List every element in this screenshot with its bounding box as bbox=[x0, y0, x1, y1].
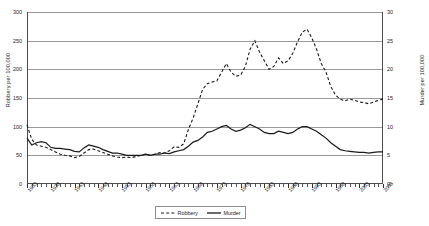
y-tick-label-left: 50 bbox=[6, 152, 22, 158]
legend-item-robbery: Robbery bbox=[161, 210, 198, 216]
x-tick bbox=[207, 184, 208, 187]
x-tick bbox=[70, 184, 71, 187]
y-tick-label-right: 20 bbox=[387, 66, 403, 72]
x-tick bbox=[307, 184, 308, 187]
y-tick-label-left: 250 bbox=[6, 38, 22, 44]
x-tick bbox=[236, 184, 237, 187]
chart-container: Robbery per 100,000 Murder per 100,000 0… bbox=[0, 0, 429, 226]
chart-legend: Robbery Murder bbox=[155, 206, 246, 219]
x-tick bbox=[374, 184, 375, 187]
x-tick bbox=[326, 184, 327, 187]
x-tick bbox=[94, 184, 95, 187]
x-tick bbox=[331, 184, 332, 187]
x-tick bbox=[212, 184, 213, 187]
x-tick bbox=[255, 184, 256, 187]
x-tick bbox=[279, 184, 280, 187]
x-tick bbox=[355, 184, 356, 187]
y-tick-label-right: 30 bbox=[387, 9, 403, 15]
y-tick-label-left: 0 bbox=[6, 181, 22, 187]
x-tick bbox=[283, 184, 284, 187]
x-tick bbox=[89, 184, 90, 187]
x-tick bbox=[136, 184, 137, 187]
x-tick bbox=[117, 184, 118, 187]
y-tick-label-right: 10 bbox=[387, 124, 403, 130]
x-tick bbox=[302, 184, 303, 187]
x-tick bbox=[65, 184, 66, 187]
solid-line-icon bbox=[207, 211, 221, 215]
y-tick-label-right: 15 bbox=[387, 95, 403, 101]
x-tick-label: 2008 bbox=[382, 180, 394, 193]
line-series-robbery bbox=[27, 29, 383, 157]
x-tick bbox=[41, 184, 42, 187]
data-lines bbox=[27, 12, 383, 184]
x-tick bbox=[112, 184, 113, 187]
x-tick bbox=[46, 184, 47, 187]
x-tick bbox=[184, 184, 185, 187]
x-tick bbox=[160, 184, 161, 187]
y-axis-right-title: Murder per 100,000 bbox=[419, 44, 425, 116]
x-tick bbox=[231, 184, 232, 187]
x-tick bbox=[378, 184, 379, 187]
y-axis-left-title: Robbery per 100,000 bbox=[5, 44, 11, 116]
y-tick-label-right: 5 bbox=[387, 152, 403, 158]
legend-label-murder: Murder bbox=[223, 210, 240, 216]
legend-item-murder: Murder bbox=[207, 210, 241, 216]
x-tick bbox=[188, 184, 189, 187]
y-tick-label-right: 25 bbox=[387, 38, 403, 44]
legend-label-robbery: Robbery bbox=[178, 210, 198, 216]
x-tick bbox=[350, 184, 351, 187]
x-tick bbox=[141, 184, 142, 187]
y-tick-label-left: 150 bbox=[6, 95, 22, 101]
y-tick-label-left: 100 bbox=[6, 124, 22, 130]
plot-area bbox=[27, 12, 383, 184]
line-series-murder bbox=[27, 124, 383, 155]
y-tick-label-left: 300 bbox=[6, 9, 22, 15]
y-tick-label-left: 200 bbox=[6, 66, 22, 72]
dashed-line-icon bbox=[161, 211, 175, 215]
x-tick bbox=[260, 184, 261, 187]
x-tick bbox=[165, 184, 166, 187]
